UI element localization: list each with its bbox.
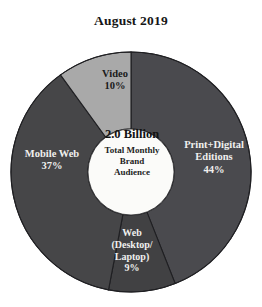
donut-hole (88, 129, 174, 215)
donut-chart-svg (0, 0, 262, 307)
donut-chart: Print+Digital Editions 44% Mobile Web 37… (0, 0, 262, 307)
